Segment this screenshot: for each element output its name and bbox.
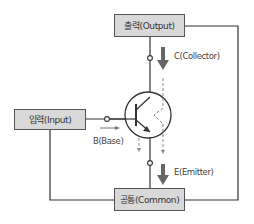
collector-label: C(Collector) — [174, 51, 220, 61]
emitter-label: E(Emitter) — [174, 167, 213, 177]
emitter-terminal — [148, 161, 153, 166]
collector-current-arrow-icon — [157, 47, 169, 70]
input-box: 입력(Input) — [14, 109, 86, 130]
dashed-arrow-icon — [161, 150, 165, 154]
emitter-current-arrow-icon — [157, 164, 169, 185]
output-box: 출력(Output) — [114, 14, 185, 37]
collector-terminal — [148, 56, 153, 61]
base-current-arrow-icon — [100, 126, 120, 130]
common-box: 공통(Common) — [114, 188, 185, 211]
dashed-arrow-icon — [137, 148, 141, 152]
base-terminal — [105, 117, 110, 122]
base-label: B(Base) — [93, 136, 123, 146]
